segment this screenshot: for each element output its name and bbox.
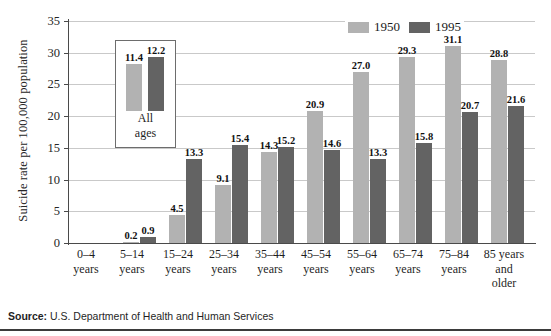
inset-bars: 11.4 12.2 bbox=[116, 41, 175, 111]
bar-value-1995-45-54: 14.6 bbox=[315, 138, 349, 149]
x-axis-line bbox=[68, 243, 536, 244]
bar-1950-5-14[interactable]: 0.2 bbox=[123, 242, 139, 243]
inset-caption-line2: ages bbox=[116, 126, 175, 141]
x-label-line3: older bbox=[473, 276, 535, 291]
inset-value-1995: 12.2 bbox=[139, 45, 173, 56]
x-label-45-54-years: 45–54 years bbox=[292, 247, 340, 276]
bar-value-1995-85-older: 21.6 bbox=[499, 94, 533, 105]
bar-1950-25-34[interactable]: 9.1 bbox=[215, 185, 231, 243]
bar-value-1950-85-older: 28.8 bbox=[482, 48, 516, 59]
x-label-15-24-years: 15–24 years bbox=[154, 247, 202, 276]
bar-value-1995-55-64: 13.3 bbox=[361, 147, 395, 158]
x-label-line2: years bbox=[154, 262, 202, 277]
chart-figure: Suicide rate per 100,000 population 35 3… bbox=[0, 0, 551, 336]
x-label-line1: 0–4 bbox=[62, 247, 110, 262]
bar-1995-35-44[interactable]: 15.2 bbox=[278, 147, 294, 243]
y-tick-mark-0 bbox=[64, 243, 69, 244]
x-label-line2: and bbox=[473, 262, 535, 277]
y-tick-label-30: 30 bbox=[14, 46, 60, 61]
x-label-line2: years bbox=[292, 262, 340, 277]
bar-1950-45-54[interactable]: 20.9 bbox=[307, 111, 323, 244]
x-label-line1: 15–24 bbox=[154, 247, 202, 262]
x-label-line2: years bbox=[62, 262, 110, 277]
y-tick-label-5: 5 bbox=[14, 204, 60, 219]
bar-1995-45-54[interactable]: 14.6 bbox=[324, 150, 340, 243]
bar-value-1950-65-74: 29.3 bbox=[390, 45, 424, 56]
bar-1995-85-older[interactable]: 21.6 bbox=[508, 106, 524, 243]
legend: 1950 1995 bbox=[345, 18, 464, 36]
bar-1995-65-74[interactable]: 15.8 bbox=[416, 143, 432, 243]
x-label-line2: years bbox=[384, 262, 432, 277]
y-tick-label-35: 35 bbox=[14, 14, 60, 29]
x-axis-labels: 0–4 years 5–14 years 15–24 years 25–34 y… bbox=[69, 247, 535, 305]
bar-value-1950-55-64: 27.0 bbox=[344, 60, 378, 71]
y-tick-label-10: 10 bbox=[14, 173, 60, 188]
x-label-75-84-years: 75–84 years bbox=[430, 247, 478, 276]
x-label-line2: years bbox=[200, 262, 248, 277]
bar-value-1995-5-14: 0.9 bbox=[131, 225, 165, 236]
x-label-5-14-years: 5–14 years bbox=[108, 247, 156, 276]
bar-1950-15-24[interactable]: 4.5 bbox=[169, 215, 185, 244]
x-label-line2: years bbox=[338, 262, 386, 277]
x-label-line2: years bbox=[246, 262, 294, 277]
legend-item-1995[interactable]: 1995 bbox=[409, 19, 461, 35]
bar-1995-25-34[interactable]: 15.4 bbox=[232, 145, 248, 243]
legend-swatch-1995-icon bbox=[409, 22, 430, 33]
x-label-0-4-years: 0–4 years bbox=[62, 247, 110, 276]
inset-all-ages: 11.4 12.2 All ages bbox=[115, 40, 176, 148]
source-line: Source: U.S. Department of Health and Hu… bbox=[8, 310, 274, 322]
bar-1950-75-84[interactable]: 31.1 bbox=[445, 46, 461, 243]
bar-value-1950-45-54: 20.9 bbox=[298, 99, 332, 110]
inset-caption: All ages bbox=[116, 111, 175, 140]
x-label-25-34-years: 25–34 years bbox=[200, 247, 248, 276]
x-label-55-64-years: 55–64 years bbox=[338, 247, 386, 276]
inset-bar-1950[interactable]: 11.4 bbox=[126, 64, 142, 111]
bar-value-1995-35-44: 15.2 bbox=[269, 135, 303, 146]
x-label-line1: 5–14 bbox=[108, 247, 156, 262]
bar-1995-55-64[interactable]: 13.3 bbox=[370, 159, 386, 243]
inset-bar-1995[interactable]: 12.2 bbox=[148, 57, 164, 111]
footer-divider bbox=[0, 329, 551, 331]
x-label-line1: 55–64 bbox=[338, 247, 386, 262]
bar-value-1995-65-74: 15.8 bbox=[407, 131, 441, 142]
bar-1995-75-84[interactable]: 20.7 bbox=[462, 112, 478, 243]
x-label-35-44-years: 35–44 years bbox=[246, 247, 294, 276]
x-label-line2: years bbox=[430, 262, 478, 277]
x-label-line1: 45–54 bbox=[292, 247, 340, 262]
y-tick-label-25: 25 bbox=[14, 77, 60, 92]
bar-1950-85-older[interactable]: 28.8 bbox=[491, 60, 507, 243]
bar-1995-15-24[interactable]: 13.3 bbox=[186, 159, 202, 243]
x-label-line1: 65–74 bbox=[384, 247, 432, 262]
x-label-line2: years bbox=[108, 262, 156, 277]
inset-caption-line1: All bbox=[116, 111, 175, 126]
legend-item-1950[interactable]: 1950 bbox=[348, 19, 400, 35]
source-label: Source: bbox=[8, 310, 47, 322]
legend-label-1995: 1995 bbox=[435, 19, 461, 35]
bar-1995-5-14[interactable]: 0.9 bbox=[140, 237, 156, 243]
source-text: U.S. Department of Health and Human Serv… bbox=[50, 310, 274, 322]
bar-value-1995-75-84: 20.7 bbox=[453, 100, 487, 111]
y-tick-label-15: 15 bbox=[14, 141, 60, 156]
bar-value-1995-15-24: 13.3 bbox=[177, 147, 211, 158]
y-tick-label-20: 20 bbox=[14, 109, 60, 124]
x-label-line1: 85 years bbox=[473, 247, 535, 262]
x-label-line1: 25–34 bbox=[200, 247, 248, 262]
bar-1950-65-74[interactable]: 29.3 bbox=[399, 57, 415, 243]
x-label-65-74-years: 65–74 years bbox=[384, 247, 432, 276]
x-label-line1: 75–84 bbox=[430, 247, 478, 262]
legend-label-1950: 1950 bbox=[374, 19, 400, 35]
x-label-line1: 35–44 bbox=[246, 247, 294, 262]
legend-swatch-1950-icon bbox=[348, 22, 369, 33]
y-tick-label-0: 0 bbox=[14, 236, 60, 251]
bar-1950-35-44[interactable]: 14.3 bbox=[261, 152, 277, 243]
x-label-85-years-and-older: 85 years and older bbox=[473, 247, 535, 291]
